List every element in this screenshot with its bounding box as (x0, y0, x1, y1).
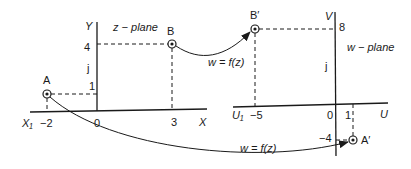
mapping-arrow-b-to-b-prime-icon (176, 32, 250, 55)
w-plane-v-tick-neg4: −4 (319, 132, 332, 144)
w-plane-j-label: j (324, 60, 327, 72)
w-plane-u-tick-0: 0 (327, 109, 333, 121)
z-plane: Y z − plane 4 j 1 X₁ −2 0 3 X A B (21, 20, 207, 129)
w-plane-v-tick-8: 8 (339, 21, 345, 33)
point-a-label: A (43, 74, 51, 86)
z-plane-y-tick-1: 1 (89, 80, 95, 92)
w-plane-v-axis-label: V (325, 10, 334, 22)
z-plane-y-tick-4: 4 (84, 41, 90, 53)
w-plane-u-axis (233, 103, 388, 107)
point-a-prime: A′ (349, 134, 370, 146)
mapping-upper-label: w = f(z) (208, 56, 245, 68)
w-plane-u-tick-neg5: −5 (250, 109, 263, 121)
mapping-lower-label: w = f(z) (240, 142, 277, 154)
conformal-mapping-diagram: Y z − plane 4 j 1 X₁ −2 0 3 X A B (0, 0, 411, 169)
w-plane: V 8 w − plane j U₁ −5 0 1 U −4 B′ A′ (232, 9, 394, 156)
w-plane-u-tick-1: 1 (345, 109, 351, 121)
z-plane-x-tick-3: 3 (171, 116, 177, 128)
point-b-label: B (167, 25, 174, 37)
z-plane-j-label: j (86, 62, 89, 74)
point-b-prime-label: B′ (250, 9, 259, 21)
mapping-upper: w = f(z) (176, 32, 250, 68)
w-plane-u-axis-label: U (380, 108, 388, 120)
z-plane-x-tick-neg2: −2 (40, 117, 53, 129)
z-plane-x-axis (30, 109, 207, 112)
z-plane-x1-label: X₁ (21, 117, 33, 129)
z-plane-x-tick-0: 0 (94, 117, 100, 129)
z-plane-title: z − plane (112, 21, 158, 33)
w-plane-u1-label: U₁ (232, 109, 244, 121)
w-plane-v-axis (335, 12, 336, 156)
w-plane-title: w − plane (347, 41, 394, 53)
point-a-prime-label: A′ (361, 134, 370, 146)
point-b: B (167, 25, 176, 48)
point-a: A (43, 74, 51, 98)
z-plane-x-axis-label: X (198, 116, 207, 128)
z-plane-y-axis-label: Y (85, 20, 93, 32)
point-b-prime: B′ (250, 9, 259, 33)
